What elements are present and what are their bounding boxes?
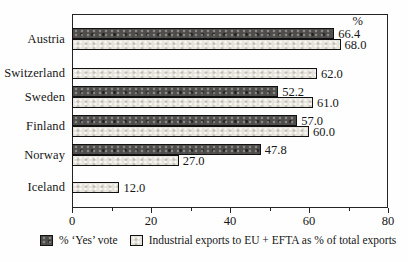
category-label: Switzerland: [0, 66, 65, 81]
bar-value-label: 12.0: [123, 180, 145, 195]
bar-group: 47.827.0: [72, 144, 388, 166]
bar-group: 62.0: [72, 68, 388, 79]
category-row: Finland57.060.0: [0, 115, 408, 137]
bar-exports: 12.0: [72, 182, 119, 193]
category-row: Austria66.468.0: [0, 28, 408, 50]
legend-label-yes-vote: % ‘Yes’ vote: [59, 234, 118, 246]
bar-group: 66.468.0: [72, 28, 388, 50]
x-axis-minor-tick: [349, 208, 350, 211]
bar-yes-vote: 47.8: [72, 144, 261, 155]
bar-yes-vote: 66.4: [72, 28, 334, 39]
bar-value-label: 27.0: [183, 153, 205, 168]
x-axis-minor-tick: [270, 208, 271, 211]
category-label: Finland: [0, 119, 65, 134]
bar-value-label: 61.0: [317, 95, 339, 110]
bar-group: 57.060.0: [72, 115, 388, 137]
bar-value-label: 60.0: [313, 124, 335, 139]
bar-exports: 27.0: [72, 155, 179, 166]
bar-exports: 61.0: [72, 97, 313, 108]
category-rows: Austria66.468.0Switzerland62.0Sweden52.2…: [0, 14, 408, 208]
x-axis-major-tick: [230, 208, 231, 213]
category-row: Iceland12.0: [0, 182, 408, 193]
legend-swatch-exports: [130, 235, 143, 246]
category-label: Norway: [0, 148, 65, 163]
bar-exports: 60.0: [72, 126, 309, 137]
x-axis-minor-tick: [112, 208, 113, 211]
bar-group: 52.261.0: [72, 86, 388, 108]
x-axis-major-tick: [151, 208, 152, 213]
x-axis: 020406080: [72, 208, 388, 232]
x-axis-major-tick: [72, 208, 73, 213]
bar-value-label: 62.0: [321, 66, 343, 81]
legend-label-exports: Industrial exports to EU + EFTA as % of …: [149, 234, 397, 246]
bar-yes-vote: 57.0: [72, 115, 297, 126]
category-label: Sweden: [0, 90, 65, 105]
bar-yes-vote: 52.2: [72, 86, 278, 97]
category-label: Iceland: [0, 180, 65, 195]
category-row: Switzerland62.0: [0, 68, 408, 79]
x-axis-major-tick: [388, 208, 389, 213]
x-axis-tick-label: 0: [69, 214, 75, 229]
x-axis-major-tick: [309, 208, 310, 213]
category-row: Norway47.827.0: [0, 144, 408, 166]
referendum-exports-bar-chart: % Austria66.468.0Switzerland62.0Sweden52…: [0, 0, 408, 262]
legend: % ‘Yes’ vote Industrial exports to EU + …: [40, 234, 400, 246]
bar-exports: 62.0: [72, 68, 317, 79]
bar-value-label: 68.0: [345, 37, 367, 52]
x-axis-minor-tick: [191, 208, 192, 211]
x-axis-tick-label: 40: [224, 214, 237, 229]
bar-exports: 68.0: [72, 39, 341, 50]
x-axis-tick-label: 20: [145, 214, 158, 229]
bar-group: 12.0: [72, 182, 388, 193]
x-axis-tick-label: 60: [303, 214, 316, 229]
category-label: Austria: [0, 32, 65, 47]
legend-swatch-yes-vote: [40, 235, 53, 246]
category-row: Sweden52.261.0: [0, 86, 408, 108]
x-axis-tick-label: 80: [382, 214, 395, 229]
bar-value-label: 47.8: [265, 142, 287, 157]
